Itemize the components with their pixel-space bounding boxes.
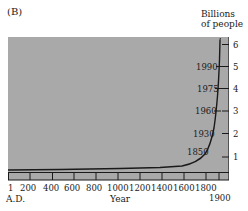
x-tick-400: 400 bbox=[43, 183, 59, 193]
y-tick-1: 1 bbox=[233, 152, 238, 162]
y-tick-3: 3 bbox=[233, 106, 238, 116]
x-tick-1200: 1200 bbox=[129, 183, 151, 193]
x-tick-1000: 1000 bbox=[107, 183, 129, 193]
x-tick-600: 600 bbox=[64, 183, 80, 193]
annotation-1990: 1990 bbox=[196, 62, 218, 72]
x-tick-1900: 1900 bbox=[209, 193, 231, 203]
x-tick-1: 1 bbox=[8, 183, 13, 193]
x-tick-800: 800 bbox=[86, 183, 102, 193]
x-tick-1600: 1600 bbox=[173, 183, 195, 193]
x-axis-start-note: A.D. bbox=[6, 194, 25, 204]
annotation-1960: 1960 bbox=[195, 106, 217, 116]
population-chart: 1 2 3 4 5 6 1990 1975 1960 1930 1850 1 2… bbox=[0, 0, 248, 211]
x-tick-1800: 1800 bbox=[195, 183, 217, 193]
annotation-1850: 1850 bbox=[187, 147, 209, 157]
y-tick-6: 6 bbox=[233, 40, 238, 50]
x-tick-200: 200 bbox=[20, 183, 36, 193]
y-tick-4: 4 bbox=[233, 84, 238, 94]
annotation-1930: 1930 bbox=[193, 129, 215, 139]
annotation-1975: 1975 bbox=[197, 84, 219, 94]
x-tick-1400: 1400 bbox=[151, 183, 173, 193]
y-tick-2: 2 bbox=[233, 129, 238, 139]
y-tick-5: 5 bbox=[233, 62, 238, 72]
x-axis-label: Year bbox=[110, 194, 130, 204]
